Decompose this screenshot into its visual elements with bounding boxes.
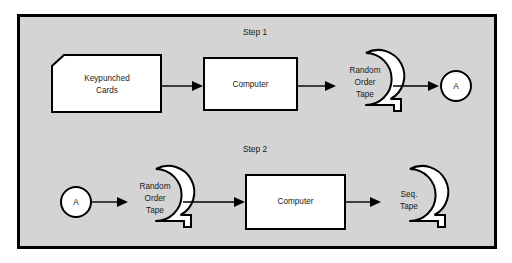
node-keypunched-cards-line2: Cards xyxy=(96,86,118,95)
node-random-order-tape-1-line3: Tape xyxy=(356,90,374,99)
node-seq-tape-line2: Tape xyxy=(400,202,418,211)
node-computer-1-label: Computer xyxy=(233,80,269,89)
node-connector-a-out-label: A xyxy=(453,81,459,91)
node-seq-tape-line1: Seq. xyxy=(401,190,418,199)
node-connector-a-in-label: A xyxy=(73,197,79,207)
node-random-order-tape-2-line2: Order xyxy=(145,194,166,203)
node-random-order-tape-1-line1: Random xyxy=(350,66,381,75)
diagram-stage: Step 1 Keypunched Cards Computer Random … xyxy=(0,0,512,263)
flowchart-svg: Step 1 Keypunched Cards Computer Random … xyxy=(0,0,512,263)
node-computer-2-label: Computer xyxy=(278,197,314,206)
step-2-label: Step 2 xyxy=(243,144,268,154)
node-keypunched-cards-line1: Keypunched xyxy=(84,74,130,83)
node-random-order-tape-2-line3: Tape xyxy=(146,206,164,215)
node-random-order-tape-2-line1: Random xyxy=(140,182,171,191)
step-1-label: Step 1 xyxy=(243,27,268,37)
node-keypunched-cards xyxy=(52,55,161,112)
node-random-order-tape-1-line2: Order xyxy=(355,78,376,87)
